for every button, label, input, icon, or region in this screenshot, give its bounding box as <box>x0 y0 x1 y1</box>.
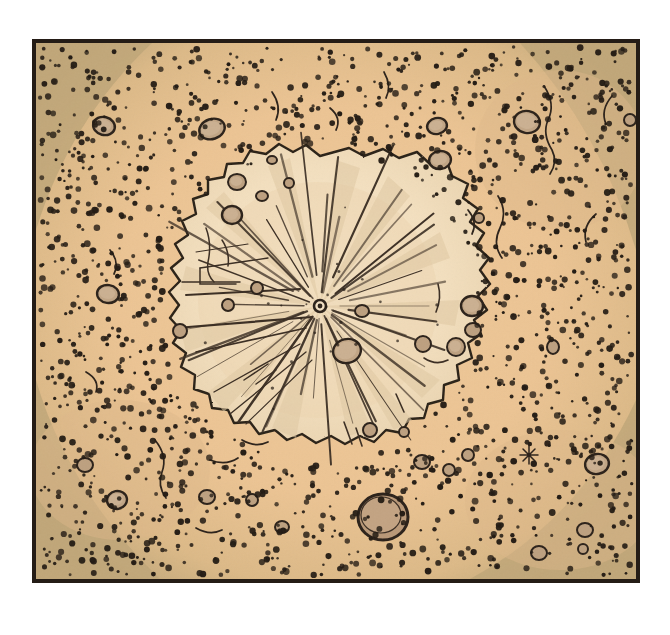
lunar-crater-illustration <box>0 0 670 635</box>
illustration-page <box>0 0 670 635</box>
paper-texture <box>36 43 636 579</box>
